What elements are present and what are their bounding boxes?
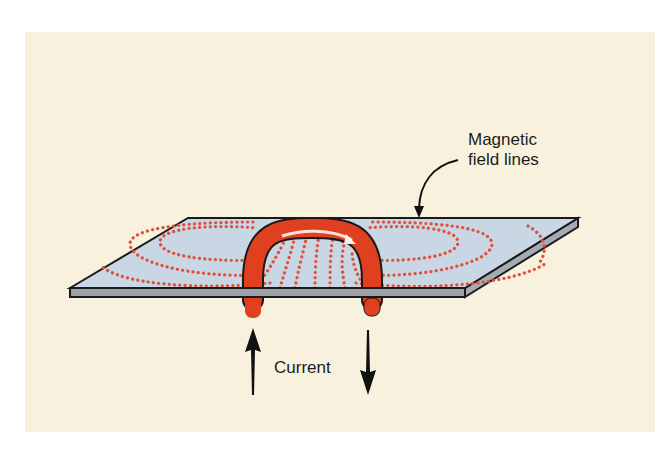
field-lines-label-line1: Magnetic: [468, 130, 539, 150]
current-arrow-up-icon: [245, 328, 261, 395]
current-label: Current: [274, 358, 331, 378]
current-arrow-down-icon: [360, 330, 376, 395]
callout-arrow-icon: [414, 160, 458, 218]
field-lines-label-line2: field lines: [468, 150, 539, 170]
magnetic-field-diagram: [0, 0, 671, 462]
plate-front-edge: [70, 288, 465, 297]
conductor-stubs: [245, 298, 380, 318]
field-lines-label: Magnetic field lines: [468, 130, 539, 170]
